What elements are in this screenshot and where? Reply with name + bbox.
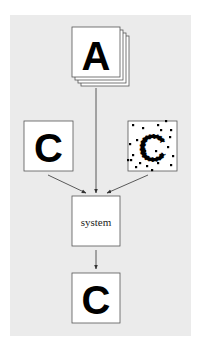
noise-dot — [160, 129, 162, 131]
noise-dot — [157, 124, 159, 126]
input-stack-letter: A — [82, 34, 111, 78]
clean-input-letter: C — [34, 126, 63, 170]
noise-dot — [169, 136, 171, 138]
noise-dot — [157, 162, 159, 164]
system-label: system — [81, 216, 112, 228]
output-node: C — [72, 273, 120, 323]
input-stack-node: A — [72, 27, 129, 86]
noise-dot — [127, 159, 129, 161]
noise-dot — [170, 164, 172, 166]
noise-dot — [142, 127, 144, 129]
noise-dot — [155, 150, 157, 152]
noise-dot — [135, 166, 137, 168]
noise-dot — [172, 155, 174, 157]
system-node: system — [72, 196, 120, 246]
noisy-input-node: C — [127, 120, 177, 171]
noise-dot — [129, 143, 131, 145]
output-letter: C — [82, 278, 111, 322]
noise-dot — [146, 165, 148, 167]
noise-dot — [147, 136, 149, 138]
noise-dot — [170, 129, 172, 131]
noise-dot — [165, 120, 167, 122]
noise-dot — [139, 162, 141, 164]
noise-dot — [132, 124, 134, 126]
noise-dot — [162, 139, 164, 141]
noise-dot — [167, 146, 169, 148]
noise-dot — [136, 139, 138, 141]
diagram-canvas: A C C system C — [0, 0, 201, 353]
noise-dot — [130, 159, 132, 161]
clean-input-node: C — [24, 121, 73, 171]
noise-dot — [132, 154, 134, 156]
noise-dot — [144, 150, 146, 152]
noise-dot — [151, 169, 153, 171]
noisy-input-letter: C — [138, 126, 167, 170]
